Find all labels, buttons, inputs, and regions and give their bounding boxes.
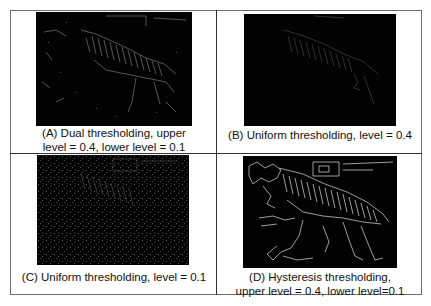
panel-b-caption: (B) Uniform thresholding, level = 0.4 xyxy=(218,128,422,142)
panel-d-caption-line1: (D) Hysteresis thresholding, xyxy=(218,270,422,284)
panel-d-caption: (D) Hysteresis thresholding, upper level… xyxy=(218,270,422,298)
panel-a-image xyxy=(36,12,192,126)
panel-d-caption-line2: upper level = 0.4, lower level=0.1 xyxy=(218,284,422,298)
panel-a-caption-line2: level = 0.4, lower level = 0.1 xyxy=(14,140,214,154)
panel-b-image xyxy=(244,14,396,126)
panel-c-caption-line1: (C) Uniform thresholding, level = 0.1 xyxy=(12,270,216,284)
panel-c-caption: (C) Uniform thresholding, level = 0.1 xyxy=(12,270,216,284)
panel-a-caption: (A) Dual thresholding, upper level = 0.4… xyxy=(14,126,214,154)
panel-d-image xyxy=(243,156,397,268)
panel-c-image xyxy=(37,155,189,265)
panel-b-caption-line1: (B) Uniform thresholding, level = 0.4 xyxy=(218,128,422,142)
panel-a-caption-line1: (A) Dual thresholding, upper xyxy=(14,126,214,140)
